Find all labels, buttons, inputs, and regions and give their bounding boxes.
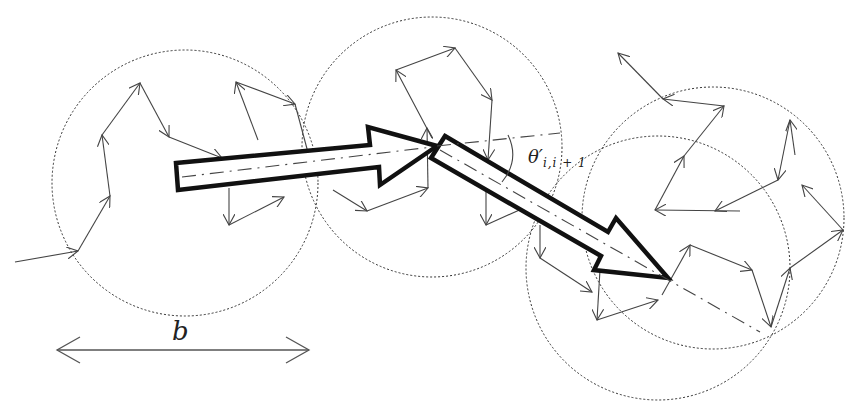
blob-circles xyxy=(52,17,844,400)
angle-symbol: θ′ xyxy=(528,146,543,167)
angle-label: θ′i,i + 1 xyxy=(528,146,587,170)
blob-size-label: b xyxy=(172,316,189,346)
angle-subscript: i,i + 1 xyxy=(543,156,587,170)
blob-vector-arrow-1 xyxy=(176,127,437,190)
diagram-canvas xyxy=(0,0,849,408)
blob-circle-3 xyxy=(582,87,844,349)
random-walk xyxy=(15,48,843,327)
blob-vector-arrow-2 xyxy=(431,136,760,332)
